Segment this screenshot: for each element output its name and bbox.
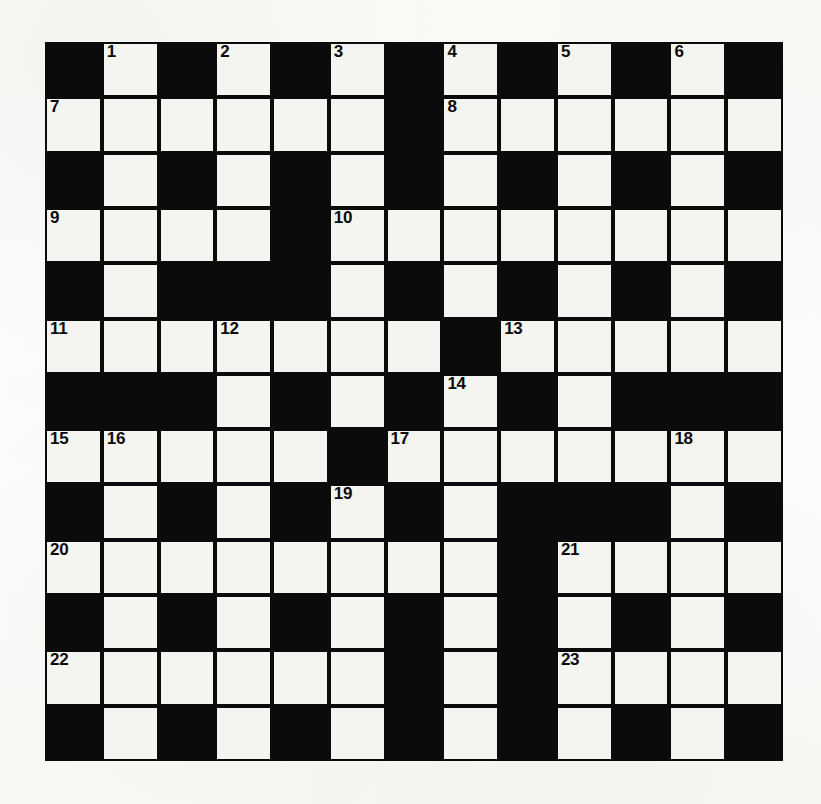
crossword-cell[interactable]	[669, 319, 726, 374]
crossword-cell[interactable]	[726, 97, 783, 152]
crossword-cell[interactable]: 8	[442, 97, 499, 152]
crossword-cell[interactable]	[499, 208, 556, 263]
crossword-cell[interactable]	[159, 540, 216, 595]
crossword-cell[interactable]	[669, 650, 726, 705]
crossword-cell[interactable]	[669, 153, 726, 208]
crossword-cell[interactable]	[102, 208, 159, 263]
crossword-cell[interactable]	[215, 208, 272, 263]
crossword-cell[interactable]	[102, 484, 159, 539]
crossword-cell[interactable]	[556, 263, 613, 318]
crossword-cell[interactable]: 10	[329, 208, 386, 263]
crossword-cell[interactable]	[442, 263, 499, 318]
crossword-cell[interactable]	[726, 319, 783, 374]
crossword-cell[interactable]	[272, 97, 329, 152]
crossword-cell[interactable]	[442, 650, 499, 705]
crossword-cell[interactable]	[613, 650, 670, 705]
crossword-cell[interactable]	[215, 706, 272, 761]
crossword-cell[interactable]	[613, 97, 670, 152]
crossword-cell[interactable]	[669, 484, 726, 539]
crossword-cell[interactable]: 12	[215, 319, 272, 374]
crossword-cell[interactable]: 16	[102, 429, 159, 484]
crossword-cell[interactable]	[102, 650, 159, 705]
crossword-cell[interactable]	[272, 429, 329, 484]
crossword-cell[interactable]	[726, 540, 783, 595]
crossword-cell[interactable]	[556, 374, 613, 429]
crossword-cell[interactable]	[613, 319, 670, 374]
crossword-cell[interactable]	[159, 319, 216, 374]
crossword-cell[interactable]	[556, 208, 613, 263]
crossword-cell[interactable]	[215, 595, 272, 650]
crossword-cell[interactable]	[442, 153, 499, 208]
crossword-cell[interactable]: 22	[45, 650, 102, 705]
crossword-cell[interactable]	[329, 374, 386, 429]
crossword-cell[interactable]	[613, 540, 670, 595]
crossword-cell[interactable]	[102, 540, 159, 595]
crossword-cell[interactable]: 2	[215, 42, 272, 97]
crossword-cell[interactable]	[215, 484, 272, 539]
crossword-cell[interactable]	[159, 650, 216, 705]
crossword-cell[interactable]: 14	[442, 374, 499, 429]
crossword-cell[interactable]	[329, 650, 386, 705]
crossword-cell[interactable]: 9	[45, 208, 102, 263]
crossword-cell[interactable]: 21	[556, 540, 613, 595]
crossword-cell[interactable]: 1	[102, 42, 159, 97]
crossword-cell[interactable]: 5	[556, 42, 613, 97]
crossword-cell[interactable]	[215, 97, 272, 152]
crossword-cell[interactable]	[102, 97, 159, 152]
crossword-cell[interactable]	[272, 319, 329, 374]
crossword-cell[interactable]	[669, 263, 726, 318]
crossword-cell[interactable]	[556, 153, 613, 208]
crossword-cell[interactable]	[442, 595, 499, 650]
crossword-cell[interactable]	[215, 153, 272, 208]
crossword-grid[interactable]: 1234567891011121314151617181920212223	[45, 42, 783, 761]
crossword-cell[interactable]: 7	[45, 97, 102, 152]
crossword-cell[interactable]	[329, 263, 386, 318]
crossword-cell[interactable]	[556, 706, 613, 761]
crossword-cell[interactable]	[613, 208, 670, 263]
crossword-cell[interactable]: 11	[45, 319, 102, 374]
crossword-cell[interactable]	[556, 319, 613, 374]
crossword-cell[interactable]	[442, 429, 499, 484]
crossword-cell[interactable]	[329, 540, 386, 595]
crossword-cell[interactable]	[329, 97, 386, 152]
crossword-cell[interactable]	[669, 706, 726, 761]
crossword-cell[interactable]	[329, 595, 386, 650]
crossword-cell[interactable]	[442, 706, 499, 761]
crossword-cell[interactable]	[102, 706, 159, 761]
crossword-cell[interactable]: 23	[556, 650, 613, 705]
crossword-cell[interactable]	[102, 595, 159, 650]
crossword-cell[interactable]	[556, 97, 613, 152]
crossword-cell[interactable]	[386, 540, 443, 595]
crossword-cell[interactable]: 4	[442, 42, 499, 97]
crossword-cell[interactable]	[669, 540, 726, 595]
crossword-cell[interactable]	[669, 208, 726, 263]
crossword-cell[interactable]: 15	[45, 429, 102, 484]
crossword-cell[interactable]	[442, 484, 499, 539]
crossword-cell[interactable]	[669, 97, 726, 152]
crossword-cell[interactable]: 20	[45, 540, 102, 595]
crossword-cell[interactable]	[556, 595, 613, 650]
crossword-cell[interactable]	[726, 208, 783, 263]
crossword-cell[interactable]: 18	[669, 429, 726, 484]
crossword-cell[interactable]	[556, 429, 613, 484]
crossword-cell[interactable]	[442, 540, 499, 595]
crossword-cell[interactable]	[613, 429, 670, 484]
crossword-cell[interactable]	[215, 650, 272, 705]
crossword-cell[interactable]	[215, 540, 272, 595]
crossword-cell[interactable]	[215, 374, 272, 429]
crossword-cell[interactable]	[159, 208, 216, 263]
crossword-cell[interactable]: 6	[669, 42, 726, 97]
crossword-cell[interactable]	[272, 650, 329, 705]
crossword-cell[interactable]	[159, 97, 216, 152]
crossword-cell[interactable]	[442, 208, 499, 263]
crossword-cell[interactable]	[386, 208, 443, 263]
crossword-cell[interactable]	[329, 319, 386, 374]
crossword-cell[interactable]: 3	[329, 42, 386, 97]
crossword-cell[interactable]	[386, 319, 443, 374]
crossword-cell[interactable]	[499, 429, 556, 484]
crossword-cell[interactable]: 13	[499, 319, 556, 374]
crossword-cell[interactable]: 19	[329, 484, 386, 539]
crossword-cell[interactable]	[726, 650, 783, 705]
crossword-cell[interactable]	[329, 706, 386, 761]
crossword-cell[interactable]: 17	[386, 429, 443, 484]
